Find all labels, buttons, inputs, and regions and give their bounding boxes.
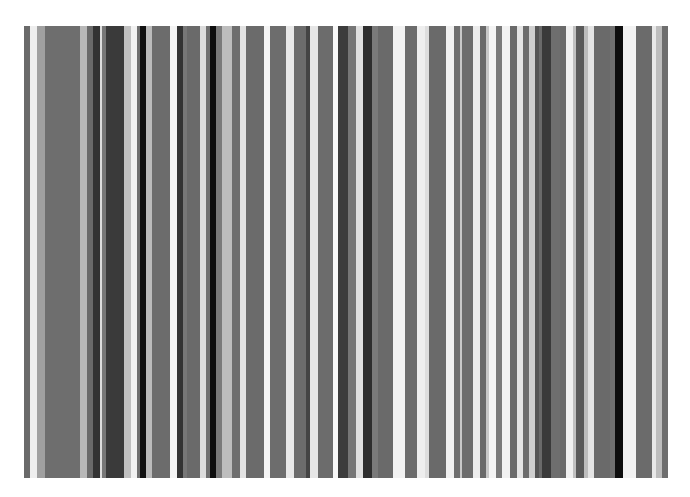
stripe [30, 26, 37, 478]
stripe [310, 26, 318, 478]
stripe [405, 26, 417, 478]
stripe [37, 26, 45, 478]
stripe [45, 26, 80, 478]
stripe [378, 26, 393, 478]
stripe [417, 26, 425, 478]
stripe [270, 26, 286, 478]
stripe [348, 26, 356, 478]
stripe [124, 26, 131, 478]
stripe [566, 26, 573, 478]
stripe [232, 26, 240, 478]
stripe [187, 26, 200, 478]
stripe [576, 26, 584, 478]
stripe [222, 26, 232, 478]
stripe [489, 26, 496, 478]
stripe [356, 26, 363, 478]
stripe [510, 26, 517, 478]
stripe [594, 26, 610, 478]
stripe [393, 26, 405, 478]
stripe [318, 26, 333, 478]
stripe [623, 26, 636, 478]
stripe [542, 26, 551, 478]
stripe [462, 26, 473, 478]
stripe [662, 26, 668, 478]
stripe [429, 26, 446, 478]
stripe [551, 26, 560, 478]
stripe [363, 26, 372, 478]
stripe [246, 26, 264, 478]
stripe [636, 26, 652, 478]
stripe [80, 26, 87, 478]
stripe [170, 26, 177, 478]
stripe [446, 26, 454, 478]
stripe [473, 26, 480, 478]
stripe [93, 26, 100, 478]
stripe [338, 26, 348, 478]
stripe [294, 26, 306, 478]
stripe [286, 26, 294, 478]
stripe [615, 26, 623, 478]
stripe [106, 26, 124, 478]
stripe [502, 26, 510, 478]
stripe-pattern [0, 26, 690, 478]
stripe [152, 26, 170, 478]
